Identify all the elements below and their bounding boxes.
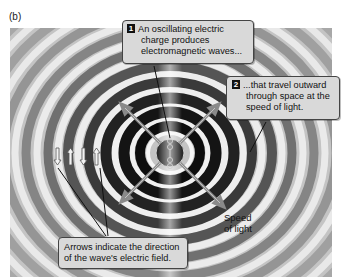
callout-oscillating-charge: 1An oscillating electric charge produces… (122, 20, 254, 64)
step-number-2: 2 (232, 80, 240, 89)
speed-line: of light (224, 223, 252, 234)
speed-line: Speed (224, 212, 252, 223)
step-number-1: 1 (127, 24, 135, 33)
callout-line: of the wave's electric field. (64, 253, 182, 264)
callout-line: through space at the (232, 91, 334, 102)
callout-travel-outward: 2...that travel outward through space at… (226, 76, 340, 120)
callout-field-direction: Arrows indicate the direction of the wav… (58, 237, 188, 269)
callout-line: charge produces (127, 35, 249, 46)
callout-line: speed of light. (232, 102, 334, 113)
panel-label: (b) (9, 11, 21, 22)
speed-of-light-label: Speed of light (224, 212, 252, 234)
callout-line: ...that travel outward (243, 80, 326, 90)
callout-line: An oscillating electric (138, 24, 224, 34)
callout-line: electromagnetic waves... (127, 46, 249, 57)
callout-line: Arrows indicate the direction (64, 242, 182, 253)
